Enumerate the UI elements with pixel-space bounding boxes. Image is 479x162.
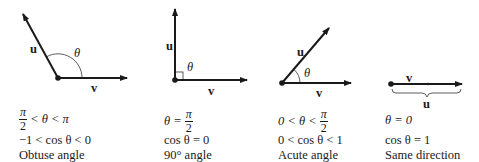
cos-range: 0 < cos θ < 1 xyxy=(278,134,343,147)
brace-u xyxy=(392,89,461,97)
vector-v-label: v xyxy=(208,85,214,98)
angle-arc xyxy=(294,69,300,83)
vector-u-label: u xyxy=(297,46,304,59)
cos-range: −1 < cos θ < 0 xyxy=(19,134,91,147)
theta-label: θ xyxy=(187,61,193,74)
vector-v-label: v xyxy=(316,87,322,100)
vector-v-label: v xyxy=(91,82,97,95)
vector-u-label: u xyxy=(166,40,173,53)
origin-point xyxy=(279,80,285,86)
cos-range: cos θ = 0 xyxy=(164,134,209,147)
origin-point xyxy=(388,81,394,87)
vector-u-label: u xyxy=(423,98,430,111)
cos-range: cos θ = 1 xyxy=(385,134,430,147)
angle-condition: θ = 0 xyxy=(385,114,412,127)
right-angle-figure xyxy=(172,9,247,83)
caption: Obtuse angle xyxy=(19,149,85,162)
angle-condition: 0 < θ < π2 xyxy=(278,108,328,135)
vector-u-label: u xyxy=(30,43,37,56)
acute-angle-figure xyxy=(279,28,351,86)
angle-condition: π2 < θ < π xyxy=(19,106,69,133)
caption: 90° angle xyxy=(164,149,212,162)
origin-point xyxy=(172,77,178,83)
angle-condition: θ = π2 xyxy=(164,108,193,135)
theta-label: θ xyxy=(304,67,310,80)
origin-point xyxy=(55,75,61,81)
caption: Acute angle xyxy=(278,149,338,162)
same-direction-figure xyxy=(388,81,462,97)
vector-u-arrow xyxy=(23,14,58,78)
caption: Same direction xyxy=(385,149,460,162)
theta-label: θ xyxy=(74,47,80,60)
vector-v-endpoint xyxy=(427,83,430,86)
vector-v-label: v xyxy=(406,72,412,85)
